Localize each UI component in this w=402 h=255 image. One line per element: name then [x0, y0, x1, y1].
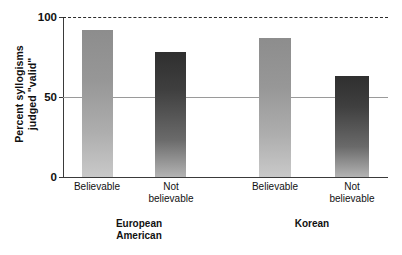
y-axis-title: Percent syllogisms judged "valid" [8, 8, 42, 180]
y-tick-label-0: 0 [51, 171, 57, 183]
category-label-1-line1: Not [136, 181, 206, 193]
y-tick-label-100: 100 [38, 11, 57, 23]
y-axis-title-line1: Percent syllogisms [13, 45, 25, 143]
bar-european-american-believable[interactable] [82, 30, 113, 177]
group-label-european-american-line1: European [94, 218, 184, 230]
category-label-3-line1: Not [317, 181, 387, 193]
bar-korean-not-believable[interactable] [335, 76, 369, 177]
category-label-1-line2: believable [136, 193, 206, 205]
bar-european-american-not-believable[interactable] [155, 52, 186, 177]
y-tick-mark-50 [59, 97, 63, 98]
y-tick-mark-0 [59, 177, 63, 178]
group-label-korean-line1: Korean [267, 218, 357, 230]
y-tick-mark-100 [59, 17, 63, 18]
y-axis-title-line2: judged "valid" [25, 45, 38, 143]
category-label-0: Believable [62, 181, 132, 193]
bar-korean-believable[interactable] [259, 38, 291, 177]
group-label-european-american-line2: American [94, 230, 184, 242]
bar-chart-figure: Percent syllogisms judged "valid" 100 50… [0, 0, 402, 255]
category-label-3: Not believable [317, 181, 387, 204]
plot-area: 100 50 0 [63, 17, 388, 178]
reference-line-100 [63, 17, 388, 18]
y-tick-label-50: 50 [44, 91, 57, 103]
category-label-2: Believable [240, 181, 310, 193]
category-label-1: Not believable [136, 181, 206, 204]
category-label-3-line2: believable [317, 193, 387, 205]
x-axis-line [63, 177, 388, 178]
category-label-0-line1: Believable [62, 181, 132, 193]
group-label-european-american: European American [94, 218, 184, 241]
category-label-2-line1: Believable [240, 181, 310, 193]
group-label-korean: Korean [267, 218, 357, 230]
